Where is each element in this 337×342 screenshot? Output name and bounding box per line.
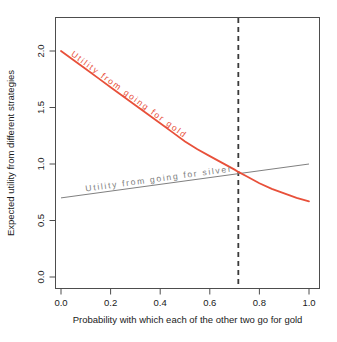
y-tick-label: 0.0 xyxy=(35,270,46,283)
x-tick-label: 0.4 xyxy=(154,297,167,308)
y-tick-label: 2.0 xyxy=(35,44,46,57)
series-label-gold: Utility from going for gold xyxy=(69,49,189,140)
y-tick-label: 1.5 xyxy=(35,101,46,114)
plot-frame xyxy=(56,18,320,289)
y-tick-label: 1.0 xyxy=(35,157,46,170)
y-tick-marks xyxy=(50,51,56,277)
y-axis-title: Expected utility from different strategi… xyxy=(5,70,16,236)
y-tick-label: 0.5 xyxy=(35,214,46,227)
series-line-silver xyxy=(61,164,309,198)
x-tick-labels: 0.00.20.40.60.81.0 xyxy=(54,297,315,308)
x-axis-title: Probability with which each of the other… xyxy=(73,314,303,325)
x-tick-label: 0.6 xyxy=(203,297,216,308)
x-tick-label: 0.8 xyxy=(253,297,266,308)
series-label-silver-text: Utility from going for silver xyxy=(85,164,233,194)
y-tick-labels: 0.00.51.01.52.0 xyxy=(35,44,46,283)
series-label-silver: Utility from going for silver xyxy=(85,164,233,194)
x-tick-marks xyxy=(61,289,309,295)
plot-canvas: 0.00.20.40.60.81.0 0.00.51.01.52.0 Utili… xyxy=(0,0,337,342)
x-tick-label: 0.0 xyxy=(54,297,67,308)
x-tick-label: 1.0 xyxy=(302,297,315,308)
chart-figure: 0.00.20.40.60.81.0 0.00.51.01.52.0 Utili… xyxy=(0,0,337,342)
x-tick-label: 0.2 xyxy=(104,297,117,308)
series-label-gold-text: Utility from going for gold xyxy=(69,49,189,140)
